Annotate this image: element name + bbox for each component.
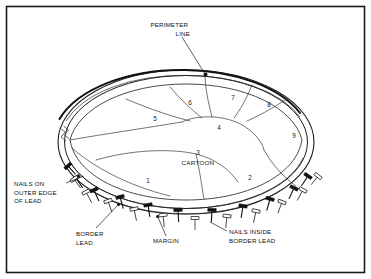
leader-perimeter-line	[182, 37, 205, 74]
cartoon-label: CARTOON	[182, 159, 215, 166]
callout-perimeter-line: PERIMETER LINE	[150, 21, 190, 37]
region-label-8: 8	[267, 101, 271, 108]
region-label-6: 6	[188, 99, 192, 106]
leader-margin	[158, 217, 166, 236]
callout-nails-on-outer-edge-of-lead: NAILS ON OUTER EDGE OF LEAD	[14, 180, 59, 204]
region-label-4: 4	[217, 124, 221, 131]
callout-margin: MARGIN	[153, 237, 179, 244]
border-lead-anchor-dot	[117, 203, 120, 206]
region-label-7: 7	[231, 94, 235, 101]
region-label-5: 5	[153, 115, 157, 122]
region-label-3: 3	[196, 149, 200, 156]
leader-border-lead	[96, 205, 118, 228]
region-label-1: 1	[146, 177, 150, 184]
leader-nails-inside	[210, 222, 227, 231]
perimeter-line-anchor-dot	[204, 73, 208, 77]
figure-root: PERIMETER LINE NAILS ON OUTER EDGE OF LE…	[0, 0, 371, 279]
callout-nails-inside-border-lead: NAILS INSIDE BORDER LEAD	[229, 228, 276, 244]
region-label-2: 2	[248, 174, 252, 181]
diagram-canvas: PERIMETER LINE NAILS ON OUTER EDGE OF LE…	[0, 0, 371, 279]
callout-border-lead: BORDER LEAD	[76, 230, 105, 246]
region-label-9: 9	[292, 132, 296, 139]
margin-anchor-dot	[156, 215, 159, 218]
